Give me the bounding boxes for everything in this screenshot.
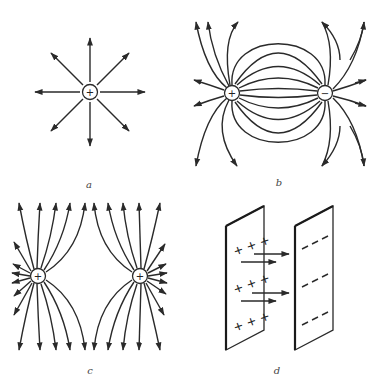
svg-text:+: + xyxy=(34,271,42,282)
positive-plate: + + + + + + + + + xyxy=(226,206,272,350)
panel-a-single-charge: + a xyxy=(35,38,145,190)
positive-charge: + xyxy=(133,269,148,284)
svg-text:+: + xyxy=(136,271,144,282)
positive-charge: + xyxy=(31,269,46,284)
svg-text:−: − xyxy=(321,88,329,99)
panel-b-dipole: + − b xyxy=(194,22,366,188)
positive-charge: + xyxy=(225,86,240,101)
negative-plate xyxy=(295,206,333,350)
svg-text:+: + xyxy=(86,87,94,98)
panel-d-capacitor: + + + + + + + + + d xyxy=(226,206,333,376)
svg-text:+: + xyxy=(228,88,236,99)
panel-a-label: a xyxy=(86,179,92,190)
panel-d-label: d xyxy=(274,365,280,376)
panel-b-label: b xyxy=(276,177,282,188)
positive-charge: + xyxy=(83,85,98,100)
panel-b-field-lines xyxy=(194,22,366,166)
negative-charge: − xyxy=(318,86,333,101)
electric-field-diagram: + a xyxy=(0,0,387,385)
panel-c-label: c xyxy=(87,365,93,376)
panel-c-like-charges: + + c xyxy=(12,203,167,376)
